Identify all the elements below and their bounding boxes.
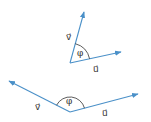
angle-label: φ	[66, 96, 72, 106]
angle-label: φ	[77, 48, 83, 58]
vector-angle-diagram: φ v⃗ u⃗ φ v⃗ u⃗	[0, 0, 151, 122]
figure-acute-angle: φ v⃗ u⃗	[66, 12, 121, 74]
vector-u-label: u⃗	[102, 108, 108, 118]
vector-u-label: u⃗	[93, 64, 99, 74]
figure-obtuse-angle: φ v⃗ u⃗	[9, 81, 138, 118]
vector-v-label: v⃗	[66, 32, 72, 42]
vector-v-label: v⃗	[35, 102, 41, 112]
